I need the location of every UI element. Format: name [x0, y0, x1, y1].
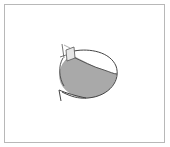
flask-illustration: [0, 0, 170, 147]
